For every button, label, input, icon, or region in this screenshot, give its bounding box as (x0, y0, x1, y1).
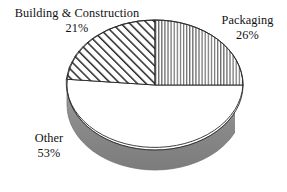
slice-label-packaging: Packaging 26% (208, 13, 287, 42)
slice-label-other-name: Other (18, 131, 80, 146)
slice-label-packaging-value: 26% (208, 28, 287, 43)
slice-label-other: Other 53% (18, 131, 80, 160)
slice-label-building-construction-value: 21% (3, 21, 151, 36)
pie-chart-screenshot: Building & Construction 21% Packaging 26… (0, 0, 287, 192)
slice-label-building-construction: Building & Construction 21% (3, 6, 151, 35)
slice-label-other-value: 53% (18, 146, 80, 161)
slice-label-packaging-name: Packaging (208, 13, 287, 28)
slice-label-building-construction-name: Building & Construction (3, 6, 151, 21)
